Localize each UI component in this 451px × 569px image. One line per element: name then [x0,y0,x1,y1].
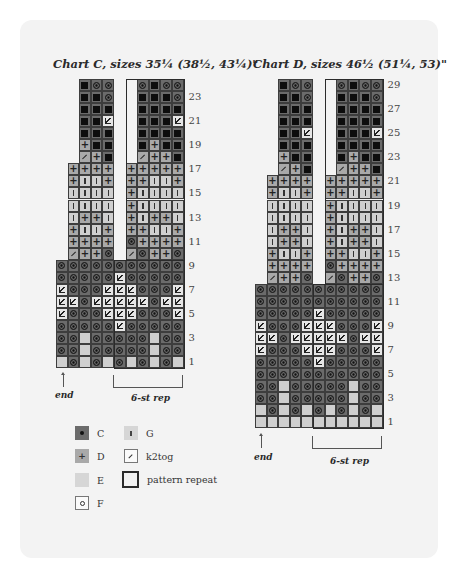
chart-cell [278,248,290,260]
chart-cell [172,248,184,260]
chart-cell [301,320,313,332]
chart-cell [325,380,337,392]
chart-cell [336,103,348,115]
chart-cell [278,103,290,115]
chart-cell [301,127,313,139]
chart-cell [359,260,371,272]
outlined-box-icon [122,471,139,488]
chart-cell [359,163,371,175]
chart-cell [336,344,348,356]
chart-cell [91,272,103,284]
chart-cell [255,308,267,320]
chart-cell [371,368,383,380]
chart-cell [172,224,184,236]
chart-cell [137,332,149,344]
chart-cell [301,272,313,284]
chart-cell [149,79,161,91]
row-number: 11 [189,236,202,248]
chart-cell [301,296,313,308]
chart-cell [267,380,279,392]
chart-cell [56,308,68,320]
chart-cell [91,187,103,199]
chart-cell [172,344,184,356]
chart-cell [114,272,126,284]
chart-cell [301,260,313,272]
row-number: 23 [189,91,202,103]
chart-cell [160,248,172,260]
chart-cell [91,320,103,332]
chart-cell [278,127,290,139]
chart-cell [172,332,184,344]
chart-cell [91,236,103,248]
chart-cell [172,187,184,199]
chart-cell [91,284,103,296]
chart-cell [290,224,302,236]
chart-cell [371,260,383,272]
chart-cell [290,320,302,332]
chart-cell [290,332,302,344]
chart-cell [255,332,267,344]
chart-cell [114,344,126,356]
chart-cell [126,212,138,224]
chart-cell [348,163,360,175]
chart-cell [278,163,290,175]
chart-cell [68,212,80,224]
chart-cell [348,308,360,320]
chart-cell [126,284,138,296]
chart-cell [348,296,360,308]
chart-cell [126,200,138,212]
chart-cell [102,356,114,368]
chart-cell [290,392,302,404]
chart-cell [371,139,383,151]
chart-cell [160,332,172,344]
chart-cell [371,344,383,356]
chart-cell [336,416,348,428]
chart-cell [278,151,290,163]
chart-cell [359,344,371,356]
chart-cell [91,163,103,175]
chart-cell [336,127,348,139]
chart-cell [278,260,290,272]
chart-cell [160,139,172,151]
chart-cell [336,212,348,224]
chart-cell [91,79,103,91]
chart-cell [325,308,337,320]
chart-cell [126,248,138,260]
chart-c-end-label: end [55,390,74,400]
chart-cell [290,404,302,416]
chart-cell [301,139,313,151]
chart-cell [160,151,172,163]
chart-cell [68,224,80,236]
chart-cell [267,236,279,248]
chart-cell [149,284,161,296]
chart-cell [91,356,103,368]
chart-cell [126,260,138,272]
chart-cell [336,163,348,175]
chart-cell [91,91,103,103]
chart-cell [137,320,149,332]
row-number: 19 [388,200,401,212]
chart-cell [359,139,371,151]
chart-cell [290,91,302,103]
chart-cell [126,320,138,332]
chart-cell [359,272,371,284]
chart-cell [371,79,383,91]
chart-cell [56,284,68,296]
chart-cell [336,284,348,296]
chart-cell [56,296,68,308]
chart-cell [278,236,290,248]
chart-cell [172,79,184,91]
chart-cell [160,344,172,356]
chart-cell [325,296,337,308]
chart-cell [114,296,126,308]
chart-cell [160,320,172,332]
chart-cell [278,296,290,308]
chart-cell [79,284,91,296]
chart-cell [79,356,91,368]
chart-cell [79,79,91,91]
chart-cell [160,187,172,199]
chart-cell [91,344,103,356]
chart-cell [359,236,371,248]
chart-cell [348,260,360,272]
chart-cell [79,163,91,175]
